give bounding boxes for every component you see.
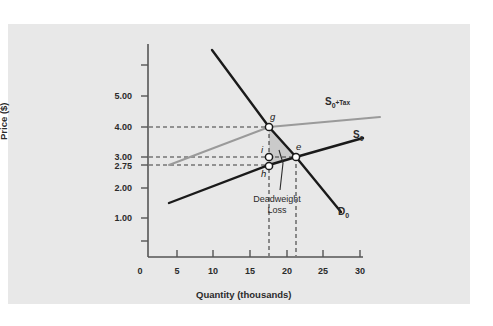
y-tick-label-500: 5.00 — [94, 91, 132, 101]
supply-label: S0 — [353, 129, 364, 142]
supply-plus-tax-label-sub2: +Tax — [336, 99, 351, 106]
point-marker-i — [265, 153, 272, 160]
supply-plus-tax-label-text: S — [325, 96, 332, 107]
point-marker-e — [292, 153, 299, 160]
deadweight-loss-annotation: Deadweight Loss — [235, 194, 319, 216]
point-label-g: g — [270, 111, 275, 122]
x-tick-label-30: 30 — [348, 266, 372, 276]
point-label-i: i — [261, 144, 263, 155]
x-tick-label-15: 15 — [238, 266, 262, 276]
x-tick-label-5: 5 — [165, 266, 189, 276]
supply-label-sub: 0 — [360, 135, 364, 142]
y-tick-marks — [141, 65, 148, 241]
demand-label-sub: 0 — [345, 212, 349, 219]
point-marker-h — [265, 162, 272, 169]
demand-curve — [212, 50, 341, 212]
x-axis-title: Quantity (thousands) — [196, 289, 292, 300]
x-tick-label-10: 10 — [201, 266, 225, 276]
point-label-e: e — [296, 141, 301, 152]
figure-container: Price ($) 5.00 4.00 3.00 2.75 2.00 1.00 … — [0, 0, 493, 326]
y-tick-label-200: 2.00 — [94, 183, 132, 193]
deadweight-loss-line1: Deadweight — [235, 194, 319, 205]
y-tick-label-275: 2.75 — [94, 161, 132, 171]
deadweight-loss-line2: Loss — [235, 205, 319, 216]
chart-plot-area — [0, 0, 493, 326]
y-tick-label-100: 1.00 — [94, 213, 132, 223]
demand-label: D0 — [338, 206, 349, 219]
point-marker-g — [265, 123, 272, 130]
x-tick-label-0: 0 — [128, 266, 152, 276]
y-tick-label-400: 4.00 — [94, 122, 132, 132]
point-label-h: h — [261, 168, 266, 179]
x-tick-label-20: 20 — [275, 266, 299, 276]
x-tick-label-25: 25 — [311, 266, 335, 276]
supply-plus-tax-label: S0+Tax — [325, 96, 350, 109]
supply-label-text: S — [353, 129, 360, 140]
y-axis-title: Price ($) — [0, 103, 9, 141]
